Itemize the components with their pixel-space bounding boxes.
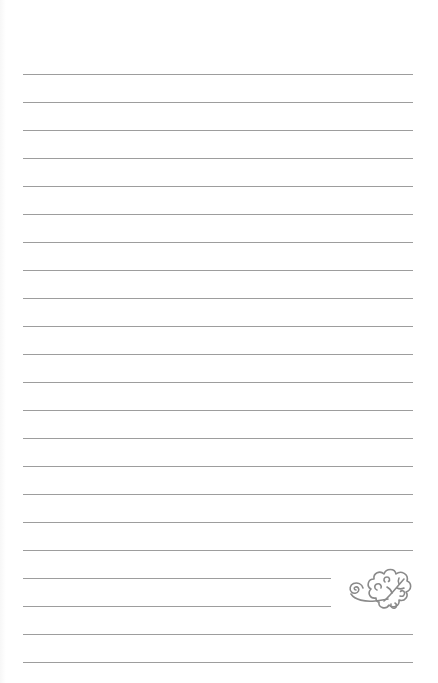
ruled-line [23,74,413,75]
ruled-line [23,130,413,131]
ruled-line [23,326,413,327]
ruled-line [23,466,413,467]
ruled-line [23,662,413,663]
ruled-line [23,242,413,243]
ruled-line [23,158,413,159]
swirl-leaf-flourish-icon [340,562,420,620]
ruled-line [23,438,413,439]
ruled-line [23,606,331,607]
ruled-line [23,578,331,579]
ruled-line [23,270,413,271]
ruled-line [23,550,413,551]
ruled-line [23,494,413,495]
ruled-line [23,522,413,523]
ruled-line [23,354,413,355]
ruled-line [23,410,413,411]
ruled-line [23,382,413,383]
ruled-line [23,298,413,299]
ruled-line [23,214,413,215]
lined-paper-page [0,0,438,683]
ruled-line [23,102,413,103]
ruled-line [23,634,413,635]
ruled-line [23,186,413,187]
